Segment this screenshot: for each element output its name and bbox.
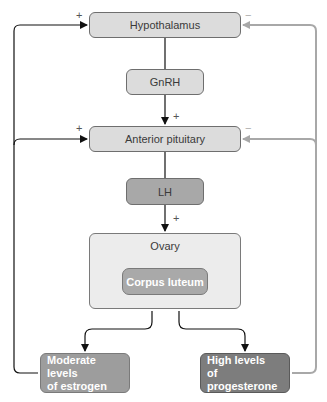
hypothalamus-label: Hypothalamus [130, 19, 200, 31]
ovary-label: Ovary [150, 240, 179, 252]
anterior-pituitary-label: Anterior pituitary [125, 133, 205, 145]
plus-sign-lh: + [173, 212, 179, 224]
progesterone-label-line1: High levels [207, 354, 289, 367]
gnrh-label: GnRH [150, 76, 181, 88]
minus-sign-hypothalamus: − [245, 9, 251, 21]
progesterone-to-pituitary-arrow [243, 139, 316, 145]
estrogen-label-line2: of estrogen [47, 380, 129, 393]
gnrh-node: GnRH [126, 69, 204, 95]
plus-sign-pituitary: + [76, 122, 82, 134]
ovary-to-progesterone-arrow [179, 311, 245, 351]
corpus-luteum-node: Corpus luteum [122, 268, 208, 295]
plus-sign-hypothalamus: + [76, 9, 82, 21]
progesterone-to-hypothalamus-arrow [243, 25, 316, 373]
estrogen-node: Moderate levels of estrogen [40, 353, 130, 393]
lh-node: LH [126, 178, 204, 205]
plus-sign-gnrh: + [173, 110, 179, 122]
lh-label: LH [158, 186, 172, 198]
estrogen-to-pituitary-arrow [14, 139, 87, 145]
ovary-to-estrogen-arrow [85, 311, 152, 351]
progesterone-node: High levels of progesterone [200, 353, 290, 393]
corpus-luteum-label: Corpus luteum [126, 276, 204, 288]
estrogen-label-line1: Moderate levels [47, 354, 129, 380]
progesterone-label-line2: of progesterone [207, 367, 289, 393]
estrogen-to-hypothalamus-arrow [14, 25, 87, 373]
minus-sign-pituitary: − [245, 122, 251, 134]
anterior-pituitary-node: Anterior pituitary [89, 126, 241, 152]
hypothalamus-node: Hypothalamus [89, 12, 241, 38]
